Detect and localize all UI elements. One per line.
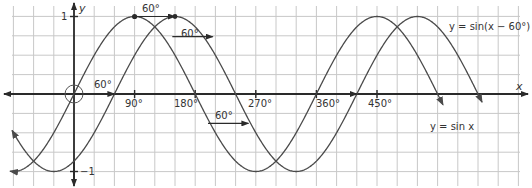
- peak-dot-shift: [173, 14, 178, 19]
- x-axis-label: x: [515, 80, 523, 93]
- curve-sin-x-minus-60-start-arrow: [12, 130, 27, 153]
- shift-label-origin: 60°: [94, 79, 112, 90]
- shift-label-descent: 60°: [181, 28, 199, 39]
- curve-label-sin: y = sin x: [430, 121, 474, 132]
- curve-label-shifted: y = sin(x − 60°): [449, 21, 530, 32]
- y-min-label: −1: [80, 166, 95, 177]
- sine-shift-diagram: y x 1 −1 90° 180° 270° 360° 450° 60° 60°…: [0, 0, 532, 188]
- shift-label-peak: 60°: [142, 3, 160, 14]
- tick-label-360: 360°: [316, 98, 340, 109]
- y-axis-label: y: [78, 2, 86, 15]
- y-max-label: 1: [61, 11, 67, 22]
- diagram-canvas: y x 1 −1 90° 180° 270° 360° 450° 60° 60°…: [0, 0, 532, 188]
- tick-label-270: 270°: [248, 98, 272, 109]
- tick-label-90: 90°: [125, 98, 143, 109]
- tick-label-450: 450°: [368, 98, 392, 109]
- tick-label-180: 180°: [174, 98, 198, 109]
- peak-dot-sin: [132, 14, 137, 19]
- curve-sin-x-start-arrow: [10, 170, 20, 171]
- shift-label-lower: 60°: [215, 110, 233, 121]
